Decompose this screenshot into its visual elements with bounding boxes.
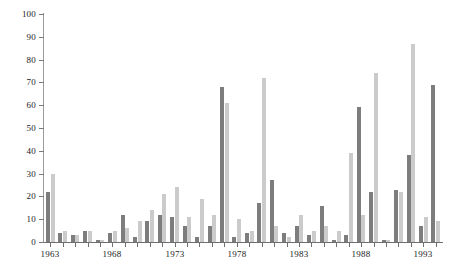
x-axis-tick-label: 1988: [352, 249, 371, 259]
x-axis-tick: [336, 243, 337, 247]
x-axis-tick: [386, 243, 387, 247]
bar: [411, 44, 415, 242]
bar: [113, 231, 117, 242]
y-axis-tick-label: 10: [6, 215, 36, 224]
y-axis-tick-label: 40: [6, 147, 36, 156]
bar: [108, 233, 112, 242]
x-axis-tick: [299, 243, 300, 247]
y-axis-tick-label: 60: [6, 101, 36, 110]
bar: [225, 103, 229, 242]
bar: [83, 231, 87, 242]
x-axis-tick: [324, 243, 325, 247]
bar: [307, 235, 311, 242]
x-axis-tick-label: 1973: [166, 249, 185, 259]
bar: [232, 237, 236, 242]
x-axis-tick: [237, 243, 238, 247]
bar: [320, 206, 324, 242]
x-axis-tick: [150, 243, 151, 247]
bar: [312, 231, 316, 242]
x-axis-tick: [212, 243, 213, 247]
x-axis-tick: [63, 243, 64, 247]
bar: [337, 231, 341, 242]
bar: [187, 217, 191, 242]
bar: [195, 237, 199, 242]
bar: [399, 192, 403, 242]
bar: [58, 233, 62, 242]
x-axis-tick: [88, 243, 89, 247]
x-axis-line: [43, 242, 443, 243]
bar: [100, 240, 104, 242]
bar: [424, 217, 428, 242]
y-axis-tick-label: 0: [6, 238, 36, 247]
x-axis-tick: [361, 243, 362, 247]
x-axis-tick: [411, 243, 412, 247]
bar: [250, 231, 254, 242]
x-axis-tick: [436, 243, 437, 247]
bar: [245, 233, 249, 242]
bar: [262, 78, 266, 242]
bar: [436, 221, 440, 242]
bar: [170, 217, 174, 242]
x-axis-tick: [274, 243, 275, 247]
x-axis-tick: [175, 243, 176, 247]
y-axis-tick-label: 80: [6, 56, 36, 65]
x-axis-tick-label: 1993: [414, 249, 433, 259]
x-axis-tick: [423, 243, 424, 247]
bar: [349, 153, 353, 242]
bar: [295, 226, 299, 242]
bar: [75, 235, 79, 242]
x-axis-tick: [287, 243, 288, 247]
y-axis-tick-label: 30: [6, 170, 36, 179]
x-axis-tick: [100, 243, 101, 247]
bar: [220, 87, 224, 242]
bar: [96, 240, 100, 242]
x-axis-tick: [75, 243, 76, 247]
bar: [419, 226, 423, 242]
x-axis-tick: [224, 243, 225, 247]
y-axis-tick-label: 90: [6, 33, 36, 42]
bar: [51, 174, 55, 242]
bar: [121, 215, 125, 242]
bar: [270, 180, 274, 242]
x-axis-tick: [50, 243, 51, 247]
x-axis-tick: [311, 243, 312, 247]
bar: [63, 231, 67, 242]
bar: [394, 190, 398, 242]
bar: [382, 240, 386, 242]
bar: [332, 240, 336, 242]
bar: [46, 192, 50, 242]
bar: [208, 226, 212, 242]
bars-layer: [44, 14, 442, 242]
x-axis-tick: [199, 243, 200, 247]
bar: [431, 85, 435, 242]
bar: [369, 192, 373, 242]
y-axis-tick-label: 20: [6, 192, 36, 201]
bar: [374, 73, 378, 242]
x-axis-tick: [187, 243, 188, 247]
bar: [257, 203, 261, 242]
bar: [200, 199, 204, 242]
x-axis-tick: [112, 243, 113, 247]
bar: [162, 194, 166, 242]
bar: [150, 210, 154, 242]
bar: [88, 231, 92, 242]
bar: [407, 155, 411, 242]
bar: [175, 187, 179, 242]
bar: [145, 221, 149, 242]
bar: [71, 235, 75, 242]
bar: [344, 235, 348, 242]
bar: [133, 237, 137, 242]
x-axis-tick: [349, 243, 350, 247]
bar: [324, 226, 328, 242]
x-axis-tick-label: 1963: [41, 249, 60, 259]
bar: [125, 228, 129, 242]
bar: [158, 215, 162, 242]
x-axis-tick: [398, 243, 399, 247]
y-axis-tick: [39, 242, 44, 243]
bar: [274, 226, 278, 242]
bar: [357, 107, 361, 242]
bar: [138, 221, 142, 242]
y-axis-tick-label: 70: [6, 78, 36, 87]
x-axis-tick-label: 1978: [228, 249, 247, 259]
bar: [299, 215, 303, 242]
